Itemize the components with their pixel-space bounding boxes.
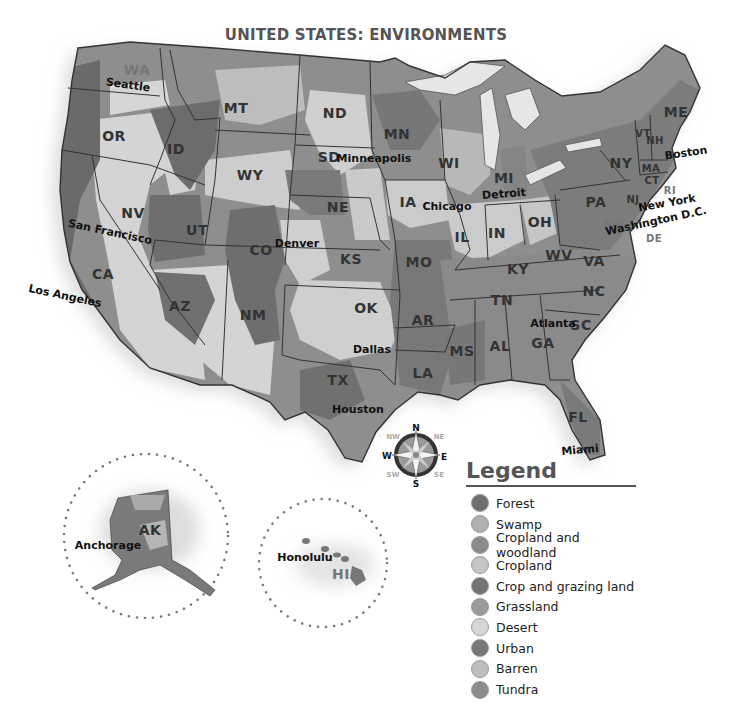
legend: Legend ForestSwampCropland and woodlandC…	[466, 458, 636, 700]
legend-swatch-icon	[471, 536, 489, 554]
legend-item: Crop and grazing land	[466, 576, 636, 597]
alaska-inset	[64, 454, 228, 618]
legend-label: Barren	[496, 661, 538, 676]
compass-southwest: SW	[387, 471, 400, 479]
city-label-houston: Houston	[332, 403, 384, 416]
compass-southeast: SE	[434, 471, 444, 479]
compass-north: N	[412, 423, 420, 433]
legend-item: Grassland	[466, 596, 636, 617]
legend-item: Forest	[466, 493, 636, 514]
legend-swatch-icon	[471, 494, 489, 512]
legend-swatch-icon	[471, 681, 489, 699]
legend-swatch-icon	[471, 598, 489, 616]
legend-label: Cropland and woodland	[496, 530, 636, 560]
legend-label: Desert	[496, 620, 538, 635]
legend-item: Cropland and woodland	[466, 534, 636, 555]
legend-label: Grassland	[496, 599, 559, 614]
legend-swatch-icon	[471, 515, 489, 533]
city-label-anchorage: Anchorage	[75, 539, 141, 552]
legend-swatch-icon	[471, 577, 489, 595]
legend-item: Urban	[466, 638, 636, 659]
legend-label: Forest	[496, 496, 534, 511]
city-label-dallas: Dallas	[353, 343, 391, 356]
legend-swatch-icon	[471, 639, 489, 657]
legend-label: Tundra	[496, 682, 538, 697]
compass-west: W	[382, 451, 392, 461]
legend-swatch-icon	[471, 618, 489, 636]
compass-south: S	[413, 479, 419, 489]
compass-northwest: NW	[386, 433, 400, 441]
city-label-honolulu: Honolulu	[277, 551, 332, 564]
legend-items: ForestSwampCropland and woodlandCropland…	[466, 493, 636, 700]
city-label-denver: Denver	[275, 237, 319, 250]
legend-swatch-icon	[471, 556, 489, 574]
legend-label: Urban	[496, 641, 534, 656]
compass-east: E	[441, 452, 447, 462]
city-label-minneapolis: Minneapolis	[337, 152, 412, 165]
legend-item: Desert	[466, 617, 636, 638]
legend-swatch-icon	[471, 660, 489, 678]
legend-item: Tundra	[466, 679, 636, 700]
legend-label: Crop and grazing land	[496, 579, 634, 594]
legend-item: Barren	[466, 659, 636, 680]
compass-northeast: NE	[434, 433, 445, 441]
city-label-chicago: Chicago	[422, 200, 471, 213]
legend-title: Legend	[466, 458, 636, 487]
legend-label: Cropland	[496, 558, 552, 573]
city-label-atlanta: Atlanta	[530, 317, 575, 330]
